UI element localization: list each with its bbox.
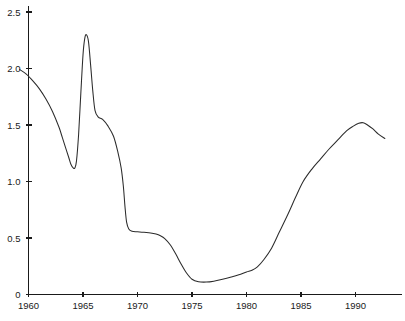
y-axis-tick-labels: 00.51.01.52.02.5 [7,7,20,301]
x-axis-tick-label: 1985 [290,300,311,311]
y-axis-tick-label: 1.5 [7,120,20,131]
x-axis-tick-label: 1970 [127,300,148,311]
y-axis-tick-label: 0.5 [7,233,20,244]
y-axis-tick-label: 0 [15,289,20,300]
y-axis-tick-label: 2.5 [7,7,20,18]
x-axis-tick-label: 1990 [345,300,366,311]
x-axis-tick-label: 1975 [181,300,202,311]
x-axis-tick-labels: 1960196519701975198019851990 [18,300,366,311]
x-axis-tick-label: 1965 [72,300,93,311]
chart-plot-area: 00.51.01.52.02.5 19601965197019751980198… [0,0,405,321]
y-axis-tick-label: 2.0 [7,63,20,74]
data-series-line [20,35,385,283]
x-axis-tick-label: 1980 [236,300,257,311]
x-axis-tick-label: 1960 [18,300,39,311]
y-axis-tick-label: 1.0 [7,176,20,187]
line-chart: 00.51.01.52.02.5 19601965197019751980198… [0,0,405,321]
